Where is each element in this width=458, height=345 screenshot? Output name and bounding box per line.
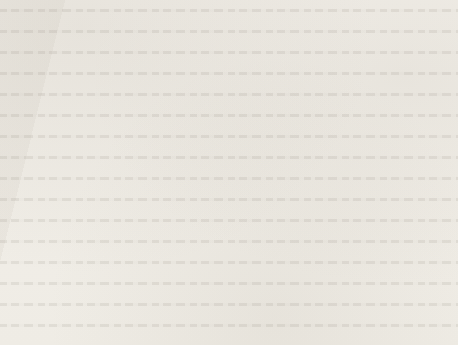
figure-canvas: [0, 0, 458, 345]
